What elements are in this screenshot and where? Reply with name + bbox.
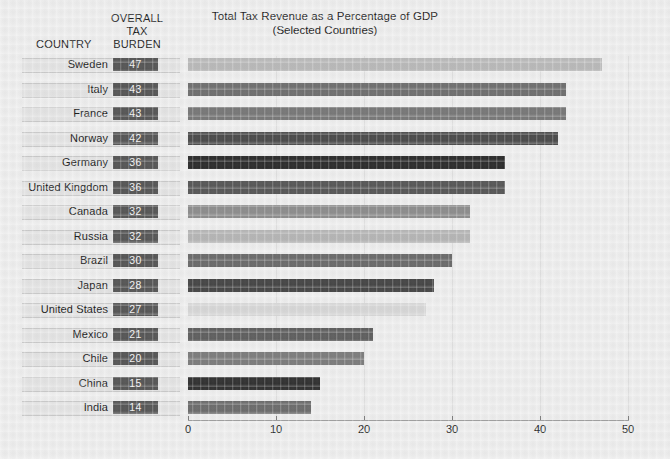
country-label: Canada bbox=[22, 204, 108, 219]
bar bbox=[188, 181, 505, 194]
chart-row: Sweden47 bbox=[0, 57, 670, 82]
bar bbox=[188, 401, 311, 414]
chart-row: Germany36 bbox=[0, 155, 670, 180]
bar bbox=[188, 205, 470, 218]
chart-row: Russia32 bbox=[0, 229, 670, 254]
country-label: Chile bbox=[22, 351, 108, 366]
bar bbox=[188, 107, 566, 120]
chart-row: China15 bbox=[0, 376, 670, 401]
chart-row: Italy43 bbox=[0, 82, 670, 107]
bar bbox=[188, 58, 602, 71]
tax-burden-value: 36 bbox=[113, 156, 158, 169]
country-label: China bbox=[22, 376, 108, 391]
tax-burden-value: 27 bbox=[113, 303, 158, 316]
tax-burden-value: 36 bbox=[113, 181, 158, 194]
chart-row: Brazil30 bbox=[0, 253, 670, 278]
country-label: Brazil bbox=[22, 253, 108, 268]
bar bbox=[188, 132, 558, 145]
tax-burden-value: 14 bbox=[113, 401, 158, 414]
tax-burden-value: 43 bbox=[113, 107, 158, 120]
bar bbox=[188, 230, 470, 243]
chart-row: India14 bbox=[0, 400, 670, 425]
country-label: France bbox=[22, 106, 108, 121]
country-label: United States bbox=[22, 302, 108, 317]
tax-burden-value: 15 bbox=[113, 377, 158, 390]
chart-row: Japan28 bbox=[0, 278, 670, 303]
chart-row: United States27 bbox=[0, 302, 670, 327]
tax-burden-value: 42 bbox=[113, 132, 158, 145]
chart-container: Total Tax Revenue as a Percentage of GDP… bbox=[0, 0, 670, 459]
tax-burden-value: 28 bbox=[113, 279, 158, 292]
chart-row: France43 bbox=[0, 106, 670, 131]
bar bbox=[188, 377, 320, 390]
country-label: Sweden bbox=[22, 57, 108, 72]
tax-burden-value: 32 bbox=[113, 205, 158, 218]
country-label: India bbox=[22, 400, 108, 415]
bar bbox=[188, 279, 434, 292]
country-label: Italy bbox=[22, 82, 108, 97]
bar bbox=[188, 303, 426, 316]
country-label: Mexico bbox=[22, 327, 108, 342]
country-label: United Kingdom bbox=[22, 180, 108, 195]
chart-rows: Sweden47Italy43France43Norway42Germany36… bbox=[0, 0, 670, 430]
tax-burden-value: 30 bbox=[113, 254, 158, 267]
chart-row: Norway42 bbox=[0, 131, 670, 156]
chart-row: United Kingdom36 bbox=[0, 180, 670, 205]
bar bbox=[188, 328, 373, 341]
tax-burden-value: 20 bbox=[113, 352, 158, 365]
bar bbox=[188, 83, 566, 96]
chart-row: Canada32 bbox=[0, 204, 670, 229]
country-label: Norway bbox=[22, 131, 108, 146]
country-label: Germany bbox=[22, 155, 108, 170]
bar bbox=[188, 352, 364, 365]
chart-row: Chile20 bbox=[0, 351, 670, 376]
tax-burden-value: 21 bbox=[113, 328, 158, 341]
country-label: Russia bbox=[22, 229, 108, 244]
country-label: Japan bbox=[22, 278, 108, 293]
chart-row: Mexico21 bbox=[0, 327, 670, 352]
bar bbox=[188, 254, 452, 267]
tax-burden-value: 32 bbox=[113, 230, 158, 243]
tax-burden-value: 43 bbox=[113, 83, 158, 96]
bar bbox=[188, 156, 505, 169]
tax-burden-value: 47 bbox=[113, 58, 158, 71]
